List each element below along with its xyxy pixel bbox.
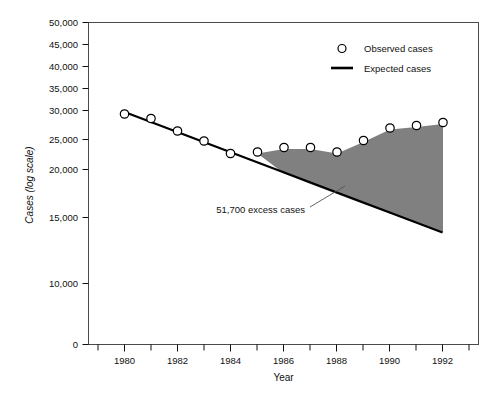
data-point-1990: [386, 124, 394, 132]
data-point-1985: [253, 148, 261, 156]
x-tick-label: 1984: [220, 355, 241, 366]
x-tick-label: 1980: [114, 355, 135, 366]
y-tick-label: 40,000: [49, 61, 78, 72]
data-point-1988: [333, 148, 341, 156]
x-axis-title: Year: [273, 372, 294, 383]
data-point-1991: [412, 121, 420, 129]
x-tick-label: 1992: [432, 355, 453, 366]
y-tick-label: 30,000: [49, 105, 78, 116]
figure-container: 50,000 45,000 40,000 35,000 30,000 25,00…: [0, 0, 502, 396]
data-point-1980: [120, 110, 128, 118]
caption-sliver: [0, 389, 200, 396]
legend-label-observed: Observed cases: [364, 43, 433, 54]
y-tick-label: 15,000: [49, 212, 78, 223]
data-point-1986: [280, 143, 288, 151]
x-tick-label: 1990: [379, 355, 400, 366]
data-point-1984: [226, 149, 234, 157]
y-axis-title: Cases (log scale): [24, 146, 35, 223]
legend-label-expected: Expected cases: [364, 63, 431, 74]
chart-svg: 50,000 45,000 40,000 35,000 30,000 25,00…: [0, 0, 502, 396]
y-tick-label: 25,000: [49, 134, 78, 145]
x-tick-label: 1982: [167, 355, 188, 366]
data-point-1983: [200, 137, 208, 145]
y-tick-label: 35,000: [49, 83, 78, 94]
data-point-1992: [439, 118, 447, 126]
annotation-label: 51,700 excess cases: [216, 204, 305, 215]
x-tick-label: 1986: [273, 355, 294, 366]
y-tick-label: 0: [73, 339, 78, 350]
data-point-1987: [306, 143, 314, 151]
y-tick-label: 45,000: [49, 39, 78, 50]
legend-marker-observed-icon: [338, 45, 346, 53]
y-tick-label: 10,000: [49, 278, 78, 289]
data-point-1981: [147, 114, 155, 122]
data-point-1989: [359, 136, 367, 144]
y-tick-label: 50,000: [49, 17, 78, 28]
data-point-1982: [173, 127, 181, 135]
x-tick-label: 1988: [326, 355, 347, 366]
y-tick-label: 20,000: [49, 164, 78, 175]
